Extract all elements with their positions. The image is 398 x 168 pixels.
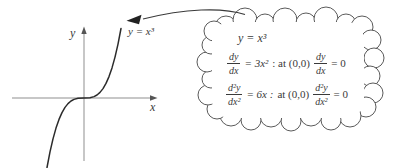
cloud-equation-line: y = x³ bbox=[238, 32, 266, 44]
fraction-denominator: dx² bbox=[226, 95, 242, 107]
y-axis-label: y bbox=[70, 27, 75, 39]
fraction-denominator: dx² bbox=[313, 95, 329, 107]
second-derivative-result: = 0 bbox=[334, 89, 348, 100]
second-derivative-value: = 6x : bbox=[246, 89, 273, 100]
first-derivative-result: = 0 bbox=[331, 58, 345, 69]
second-derivative-condition: at (0,0) bbox=[277, 89, 309, 100]
fraction-d2y-dx2: d²y dx² bbox=[313, 82, 329, 107]
cloud-second-derivative-line: d²y dx² = 6x : at (0,0) d²y dx² = 0 bbox=[226, 82, 348, 107]
first-derivative-value: = 3x² bbox=[244, 58, 268, 69]
fraction-dy-dx: dy dx bbox=[314, 51, 327, 76]
figure-canvas: y x y = x³ y = x³ dy dx = 3x² : at (0,0)… bbox=[0, 0, 398, 168]
first-derivative-condition: : at (0,0) bbox=[272, 58, 310, 69]
cloud-first-derivative-line: dy dx = 3x² : at (0,0) dy dx = 0 bbox=[227, 51, 346, 76]
fraction-numerator: dy bbox=[314, 51, 327, 64]
curve-label: y = x³ bbox=[128, 26, 154, 37]
y-axis-arrowhead-icon bbox=[81, 27, 86, 35]
annotation-arrowhead-icon bbox=[127, 15, 142, 24]
x-axis-label: x bbox=[150, 101, 155, 113]
fraction-denominator: dx bbox=[314, 64, 327, 76]
fraction-numerator: dy bbox=[227, 51, 240, 64]
fraction-d2y-dx2: d²y dx² bbox=[226, 82, 242, 107]
fraction-numerator: d²y bbox=[313, 82, 329, 95]
fraction-numerator: d²y bbox=[226, 82, 242, 95]
fraction-dy-dx: dy dx bbox=[227, 51, 240, 76]
fraction-denominator: dx bbox=[227, 64, 240, 76]
